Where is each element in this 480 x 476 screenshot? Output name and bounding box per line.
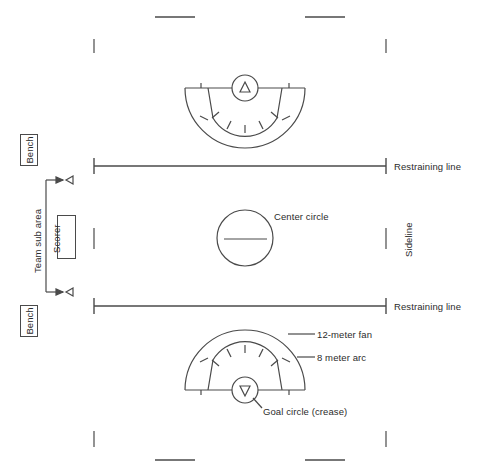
restraining-line-top-label: Restraining line: [394, 161, 461, 172]
bench-bottom-label: Bench: [24, 308, 35, 335]
sub-area-marker-top: [66, 176, 73, 184]
restraining-line-bottom-label: Restraining line: [394, 301, 461, 312]
fan-dash-bottom-left: [200, 358, 208, 362]
bench-box-top: Bench: [20, 134, 38, 166]
team-sub-arrow-top-head: [56, 177, 63, 183]
fan-dash-top-left: [200, 116, 208, 120]
sideline-label: Sideline: [403, 222, 414, 257]
eight-meter-hash-bottom-4: [259, 349, 263, 357]
scorer-label: Scorer: [51, 224, 62, 253]
goal-circle-label: Goal circle (crease): [263, 406, 347, 417]
bench-top-label: Bench: [24, 137, 35, 164]
eight-meter-hash-top-2: [227, 121, 231, 129]
bench-box-bottom: Bench: [20, 305, 38, 337]
leader-goal-circle: [253, 398, 262, 408]
eight-meter-arc-label: 8 meter arc: [317, 352, 366, 363]
fan-dash-top-right: [282, 116, 290, 120]
goal-marker-triangle-top: [240, 82, 250, 92]
center-circle: [217, 210, 273, 266]
center-circle-label: Center circle: [274, 211, 329, 222]
fan-dash-bottom-right: [282, 358, 290, 362]
team-sub-arrow-bottom-head: [56, 289, 63, 295]
eight-meter-hash-top-4: [259, 121, 263, 129]
eight-meter-hash-bottom-2: [227, 349, 231, 357]
field-diagram: Bench Bench Team sub area Scorer Sidelin…: [0, 0, 480, 476]
team-sub-area-label: Team sub area: [32, 209, 43, 273]
twelve-meter-fan-label: 12-meter fan: [317, 329, 372, 340]
sub-area-marker-bottom: [66, 288, 73, 296]
goal-marker-triangle-bottom: [240, 386, 250, 396]
goal-circle-top: [232, 75, 258, 101]
